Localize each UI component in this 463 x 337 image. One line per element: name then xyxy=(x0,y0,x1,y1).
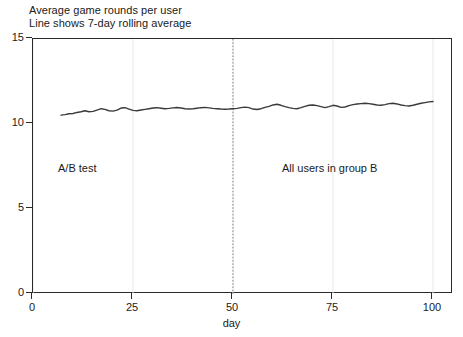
x-tick-label: 100 xyxy=(412,301,452,313)
chart-title-block: Average game rounds per user Line shows … xyxy=(29,4,191,30)
y-tick-label: 10 xyxy=(2,116,24,128)
x-tick-label: 75 xyxy=(312,301,352,313)
chart-title: Average game rounds per user xyxy=(29,4,191,17)
y-tick-label: 0 xyxy=(2,286,24,298)
x-tick-label: 50 xyxy=(212,301,252,313)
plot-area: A/B test All users in group B xyxy=(32,38,452,293)
rolling-average-line xyxy=(61,102,433,116)
y-tick-label: 15 xyxy=(2,31,24,43)
chart-subtitle: Line shows 7-day rolling average xyxy=(29,17,191,30)
annotation-all-users-group-b: All users in group B xyxy=(282,162,377,174)
x-tick-label: 25 xyxy=(112,301,152,313)
x-tick-label: 0 xyxy=(12,301,52,313)
x-axis-label: day xyxy=(0,317,463,329)
annotation-ab-test: A/B test xyxy=(58,162,97,174)
y-tick-label: 5 xyxy=(2,201,24,213)
chart-figure: Average game rounds per user Line shows … xyxy=(0,0,463,337)
